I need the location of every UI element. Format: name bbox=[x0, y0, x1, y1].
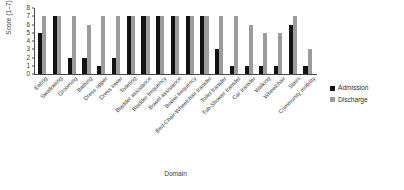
bar-group bbox=[50, 8, 65, 74]
bar-discharge bbox=[234, 16, 238, 74]
bar-group bbox=[271, 8, 286, 74]
bar-group bbox=[79, 8, 94, 74]
legend-swatch-discharge-icon bbox=[330, 97, 335, 102]
bar-discharge bbox=[263, 33, 267, 74]
bar-discharge bbox=[87, 25, 91, 75]
y-axis-tick-label: 1 bbox=[26, 63, 30, 69]
y-axis-tick-label: 2 bbox=[26, 54, 30, 60]
bar-discharge bbox=[219, 16, 223, 74]
bar-discharge bbox=[293, 16, 297, 74]
legend-label: Admission bbox=[338, 85, 368, 92]
bar-group bbox=[138, 8, 153, 74]
y-axis-tick-label: 4 bbox=[26, 38, 30, 44]
bar-discharge bbox=[72, 16, 76, 74]
bar-discharge bbox=[249, 25, 253, 75]
bar-discharge bbox=[190, 16, 194, 74]
bar-group bbox=[64, 8, 79, 74]
bar-group bbox=[285, 8, 300, 74]
bar-group bbox=[227, 8, 242, 74]
bar-discharge bbox=[204, 16, 208, 74]
y-axis-tick-label: 6 bbox=[26, 21, 30, 27]
chart-legend: AdmissionDischarge bbox=[330, 85, 368, 108]
y-axis-tick-label: 8 bbox=[26, 5, 30, 11]
bar-group bbox=[109, 8, 124, 74]
bar-discharge bbox=[308, 49, 312, 74]
bar-group bbox=[153, 8, 168, 74]
bar-group bbox=[123, 8, 138, 74]
bar-discharge bbox=[116, 16, 120, 74]
bar-discharge bbox=[278, 33, 282, 74]
bar-chart: Score (1–7) 012345678 EatingSwallowingGr… bbox=[0, 0, 404, 190]
bar-group bbox=[300, 8, 315, 74]
y-axis-tick-label: 5 bbox=[26, 30, 30, 36]
legend-item-admission: Admission bbox=[330, 85, 368, 92]
bar-group bbox=[94, 8, 109, 74]
bars-layer bbox=[34, 8, 316, 74]
bar-discharge bbox=[57, 16, 61, 74]
bar-discharge bbox=[42, 16, 46, 74]
legend-item-discharge: Discharge bbox=[330, 97, 368, 104]
bar-discharge bbox=[146, 16, 150, 74]
legend-swatch-admission-icon bbox=[330, 86, 335, 91]
bar-group bbox=[241, 8, 256, 74]
x-axis-line bbox=[34, 74, 317, 75]
bar-group bbox=[182, 8, 197, 74]
bar-discharge bbox=[160, 16, 164, 74]
bar-group bbox=[35, 8, 50, 74]
plot-area bbox=[34, 8, 316, 74]
bar-discharge bbox=[175, 16, 179, 74]
y-axis-tick-label: 0 bbox=[26, 71, 30, 77]
bar-group bbox=[212, 8, 227, 74]
bar-discharge bbox=[131, 16, 135, 74]
y-axis-tick-label: 3 bbox=[26, 46, 30, 52]
bar-group bbox=[256, 8, 271, 74]
x-axis-title: Domain bbox=[34, 170, 317, 177]
bar-group bbox=[197, 8, 212, 74]
y-axis-tick-label: 7 bbox=[26, 13, 30, 19]
bar-discharge bbox=[101, 16, 105, 74]
y-axis-title: Score (1–7) bbox=[5, 0, 12, 45]
legend-label: Discharge bbox=[338, 97, 368, 104]
bar-group bbox=[168, 8, 183, 74]
